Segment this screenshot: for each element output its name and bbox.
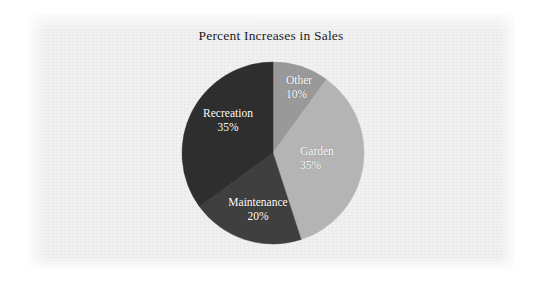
slice-value-other: 10% — [286, 88, 346, 102]
slice-value-maintenance: 20% — [212, 210, 304, 224]
slice-name-maintenance: Maintenance — [228, 196, 287, 208]
slice-name-other: Other — [286, 74, 312, 86]
chart-title: Percent Increases in Sales — [0, 28, 542, 44]
slice-name-recreation: Recreation — [203, 107, 253, 119]
slice-label-other: Other 10% — [286, 74, 346, 101]
slice-value-recreation: 35% — [186, 121, 270, 135]
slice-label-garden: Garden 35% — [300, 145, 366, 172]
pie-chart-screenshot: Percent Increases in Sales Other 10% Gar… — [0, 0, 542, 287]
slice-label-recreation: Recreation 35% — [186, 107, 270, 134]
slice-name-garden: Garden — [300, 145, 334, 157]
slice-label-maintenance: Maintenance 20% — [212, 196, 304, 223]
slice-value-garden: 35% — [300, 159, 366, 173]
